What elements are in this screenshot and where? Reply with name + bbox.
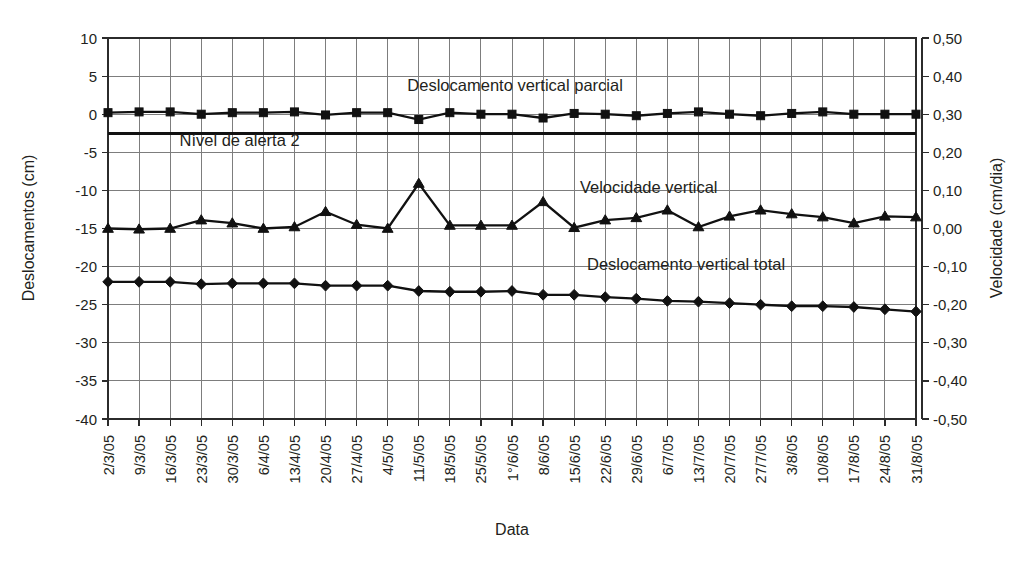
series-data-point	[724, 298, 734, 309]
series-label: Deslocamento vertical total	[587, 255, 785, 273]
series-data-point	[912, 110, 920, 118]
series-data-point	[227, 278, 237, 289]
series-data-point	[166, 108, 174, 116]
x-axis-date-label: 27/4/05	[349, 435, 365, 483]
y-axis-right-tick-label: -0,40	[933, 372, 967, 389]
series-data-point	[850, 110, 858, 118]
series-data-point	[539, 114, 547, 122]
series-data-point	[351, 280, 361, 291]
series-data-point	[196, 215, 207, 224]
series-data-point	[508, 110, 516, 118]
y-axis-left-tick-label: -20	[75, 258, 97, 275]
y-axis-right-tick-label: -0,20	[933, 296, 967, 313]
x-axis-date-label: 22/6/05	[598, 435, 614, 483]
y-axis-right-tick-label: 0,10	[933, 182, 962, 199]
x-axis-date-label: 10/8/05	[815, 435, 831, 483]
series-data-point	[476, 286, 486, 297]
vertical-displacement-chart: 1050-5-10-15-20-25-30-35-40 0,500,400,30…	[0, 0, 1024, 571]
series-data-point	[228, 109, 236, 117]
x-axis-date-label: 6/7/05	[660, 435, 676, 475]
x-axis-date-label: 31/8/05	[909, 435, 925, 483]
x-axis-date-label: 30/3/05	[225, 435, 241, 483]
y-axis-left-tick-label: 5	[89, 68, 97, 85]
y-axis-left-tick-label: -10	[75, 182, 97, 199]
series-data-point	[290, 108, 298, 116]
series-data-point	[259, 109, 267, 117]
series-annotations: Deslocamento vertical parcialNível de al…	[179, 76, 785, 273]
series-data-point	[786, 301, 796, 312]
y-axis-right-tick-label: -0,50	[933, 411, 967, 428]
x-axis-date-labels: 2/3/059/3/0516/3/0523/3/0530/3/056/4/051…	[101, 435, 925, 483]
series-data-point	[104, 109, 112, 117]
series-data-point	[382, 280, 392, 291]
series-data-point	[445, 286, 455, 297]
series-data-point	[196, 279, 206, 290]
series-data-point	[694, 108, 702, 116]
series-data-point	[881, 110, 889, 118]
x-axis-date-label: 20/7/05	[722, 435, 738, 483]
series-data-point	[289, 278, 299, 289]
y-axis-left-tick-label: -40	[75, 411, 97, 428]
y-axis-right-tick-label: 0,30	[933, 106, 962, 123]
series-data-point	[135, 108, 143, 116]
series-data-point	[538, 289, 548, 300]
series-data-point	[662, 205, 673, 214]
x-axis-date-label: 18/5/05	[442, 435, 458, 483]
x-axis-date-label: 27/7/05	[753, 435, 769, 483]
series-data-point	[726, 110, 734, 118]
y-axis-right-tick-label: 0,40	[933, 68, 962, 85]
series-label: Velocidade vertical	[580, 178, 718, 196]
series-data-point	[446, 109, 454, 117]
series-data-point	[632, 112, 640, 120]
series-data-point	[477, 110, 485, 118]
y-axis-right-tick-label: -0,10	[933, 258, 967, 275]
series-data-point	[415, 116, 423, 124]
y-axis-right-tick-label: 0,20	[933, 144, 962, 161]
series-data-point	[569, 289, 579, 300]
series-data-point	[880, 304, 890, 315]
y-axis-right-title: Velocidade (cm/dia)	[988, 158, 1005, 299]
series-data-point	[818, 301, 828, 312]
y-axis-left-tick-label: 10	[80, 30, 97, 47]
y-axis-left-tick-label: -25	[75, 296, 97, 313]
x-axis-date-label: 4/5/05	[380, 435, 396, 475]
series-data-point	[755, 205, 766, 214]
series-data-point	[413, 178, 424, 187]
series-data-point	[849, 302, 859, 313]
y-axis-left-tick-label: -15	[75, 220, 97, 237]
series-data-point	[631, 293, 641, 304]
series-data-point	[103, 276, 113, 287]
series-data-point	[600, 292, 610, 303]
series-data-point	[165, 276, 175, 287]
y-axis-right-labels: 0,500,400,300,200,100,00-0,10-0,20-0,30-…	[933, 30, 967, 428]
series-label: Deslocamento vertical parcial	[407, 76, 623, 94]
series-data-point	[601, 110, 609, 118]
y-axis-left-tick-label: -30	[75, 334, 97, 351]
x-axis-date-label: 16/3/05	[163, 435, 179, 483]
x-axis-date-label: 8/6/05	[536, 435, 552, 475]
x-axis-date-label: 23/3/05	[194, 435, 210, 483]
x-axis-date-label: 2/3/05	[101, 435, 117, 475]
series-data-point	[755, 299, 765, 310]
series-data-point	[693, 296, 703, 307]
series-label: Nível de alerta 2	[179, 131, 299, 149]
y-axis-right-tick-label: 0,00	[933, 220, 962, 237]
series-data-point	[353, 109, 361, 117]
x-axis-date-label: 13/7/05	[691, 435, 707, 483]
series-data-point	[134, 276, 144, 287]
series-data-point	[197, 110, 205, 118]
series-data-point	[788, 109, 796, 117]
x-axis-date-label: 11/5/05	[411, 435, 427, 482]
y-axis-right-tick-label: 0,50	[933, 30, 962, 47]
series-data-point	[507, 286, 517, 297]
chart-container: 1050-5-10-15-20-25-30-35-40 0,500,400,30…	[0, 0, 1024, 571]
y-axis-right-tick-label: -0,30	[933, 334, 967, 351]
x-axis-date-label: 29/6/05	[629, 435, 645, 483]
x-axis-date-label: 15/6/05	[567, 435, 583, 483]
series-data-point	[258, 278, 268, 289]
series-data-point	[570, 109, 578, 117]
x-axis-date-label: 13/4/05	[287, 435, 303, 483]
series-data-point	[538, 196, 549, 205]
x-axis-date-label: 3/8/05	[784, 435, 800, 475]
series-data-point	[819, 108, 827, 116]
